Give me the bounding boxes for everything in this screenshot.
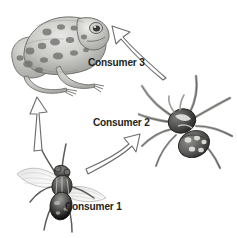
arrow-up-right-icon <box>84 132 142 176</box>
frog-illustration <box>6 6 112 98</box>
arrow-up-left-icon <box>108 24 170 80</box>
label-consumer-2: Consumer 2 <box>93 116 150 128</box>
food-chain-diagram: Consumer 3 Consumer 2 Consumer 1 <box>0 0 237 238</box>
spider-illustration <box>138 72 234 178</box>
arrow-up-icon <box>26 96 52 152</box>
label-consumer-3: Consumer 3 <box>88 56 145 68</box>
label-consumer-1: Consumer 1 <box>65 200 122 212</box>
